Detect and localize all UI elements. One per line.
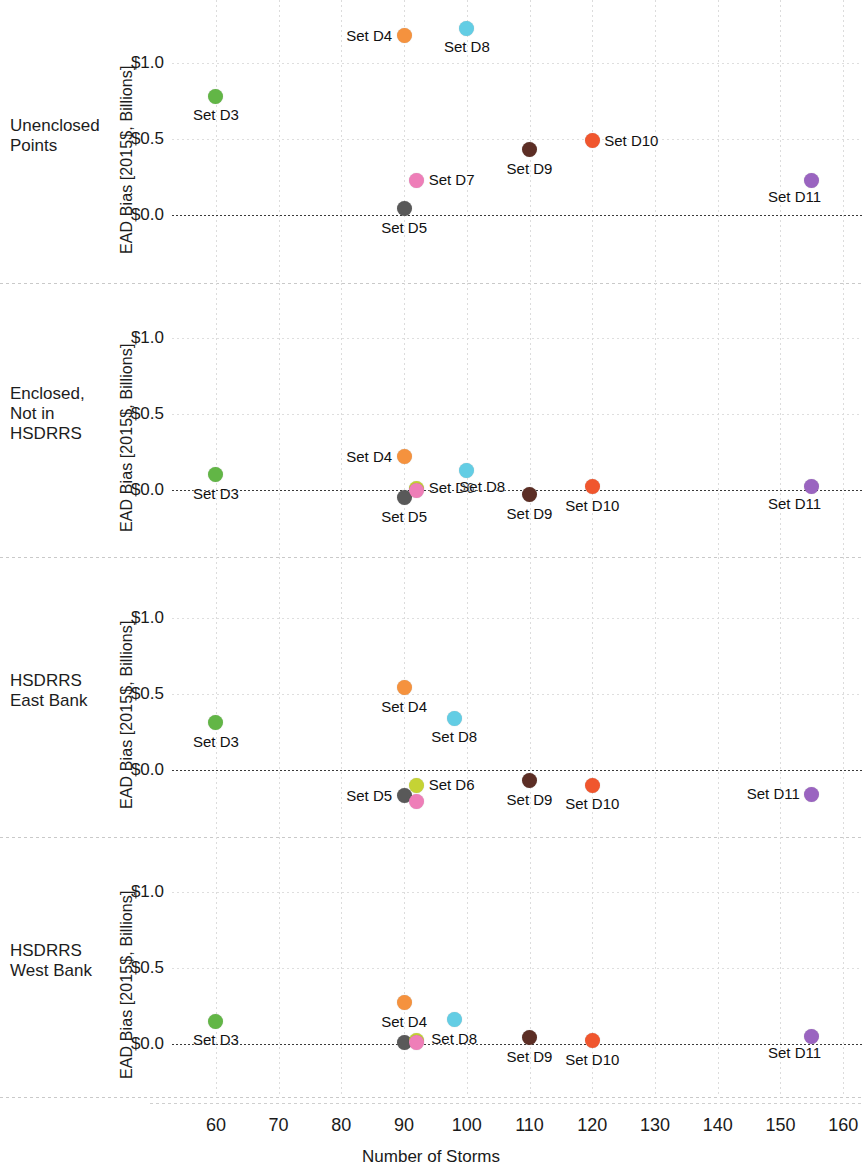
data-point-label: Set D8 xyxy=(459,478,505,495)
data-point-set-d8[interactable] xyxy=(459,463,474,478)
data-point-set-d3[interactable] xyxy=(208,1014,223,1029)
x-tick-label: 70 xyxy=(269,1115,289,1136)
x-gridline xyxy=(216,837,217,1097)
data-point-set-d4[interactable] xyxy=(397,449,412,464)
data-point-label: Set D11 xyxy=(768,1044,821,1061)
x-gridline xyxy=(279,283,280,557)
x-gridline xyxy=(279,0,280,283)
data-point-set-d10[interactable] xyxy=(585,133,600,148)
y-gridline xyxy=(172,63,862,64)
data-point-set-d9[interactable] xyxy=(522,487,537,502)
ead-bias-figure: UnenclosedPointsEAD Bias [2015$, Billion… xyxy=(0,0,862,1166)
data-point-set-d9[interactable] xyxy=(522,142,537,157)
data-point-set-d10[interactable] xyxy=(585,778,600,793)
y-tick-label: $0.0 xyxy=(94,480,164,500)
data-point-label: Set D11 xyxy=(747,785,800,802)
data-point-label: Set D3 xyxy=(193,106,239,123)
x-tick-label: 120 xyxy=(577,1115,607,1136)
data-point-set-d11[interactable] xyxy=(804,479,819,494)
data-point-set-d7[interactable] xyxy=(409,794,424,809)
data-point-label: Set D6 xyxy=(429,776,475,793)
x-gridline xyxy=(718,283,719,557)
data-point-set-d4[interactable] xyxy=(397,680,412,695)
x-gridline xyxy=(592,283,593,557)
data-point-set-d3[interactable] xyxy=(208,89,223,104)
data-point-set-d7[interactable] xyxy=(409,483,424,498)
x-gridline xyxy=(341,837,342,1097)
x-gridline xyxy=(467,283,468,557)
data-point-label: Set D10 xyxy=(565,795,619,812)
x-gridline xyxy=(843,283,844,557)
data-point-label: Set D9 xyxy=(507,505,553,522)
panel-4: HSDRRSWest BankEAD Bias [2015$, Billions… xyxy=(0,837,862,1097)
data-point-set-d8[interactable] xyxy=(447,711,462,726)
x-gridline xyxy=(467,837,468,1097)
zero-reference-line xyxy=(172,770,862,771)
panel-separator-4 xyxy=(0,1097,862,1098)
y-gridline xyxy=(172,414,862,415)
y-tick-label: $0.5 xyxy=(94,404,164,424)
x-tick-label: 100 xyxy=(452,1115,482,1136)
x-gridline xyxy=(655,837,656,1097)
x-gridline xyxy=(279,837,280,1097)
data-point-set-d7[interactable] xyxy=(409,173,424,188)
data-point-label: Set D9 xyxy=(507,160,553,177)
data-point-label: Set D7 xyxy=(429,171,475,188)
y-gridline xyxy=(172,694,862,695)
x-tick-label: 140 xyxy=(703,1115,733,1136)
panel-1: UnenclosedPointsEAD Bias [2015$, Billion… xyxy=(0,0,862,283)
y-gridline xyxy=(172,968,862,969)
y-gridline xyxy=(172,618,862,619)
x-gridline xyxy=(216,557,217,837)
y-axis-title-3: EAD Bias [2015$, Billions] xyxy=(118,621,136,809)
data-point-set-d8[interactable] xyxy=(459,21,474,36)
data-point-label: Set D4 xyxy=(381,698,427,715)
data-point-set-d11[interactable] xyxy=(804,1029,819,1044)
y-tick-label: $0.5 xyxy=(94,684,164,704)
data-point-label: Set D11 xyxy=(768,188,821,205)
zero-reference-line xyxy=(172,215,862,216)
x-tick-label: 80 xyxy=(331,1115,351,1136)
data-point-label: Set D10 xyxy=(565,1051,619,1068)
data-point-set-d10[interactable] xyxy=(585,479,600,494)
x-gridline xyxy=(655,557,656,837)
x-gridline xyxy=(404,837,405,1097)
data-point-set-d9[interactable] xyxy=(522,773,537,788)
data-point-set-d4[interactable] xyxy=(397,995,412,1010)
data-point-set-d10[interactable] xyxy=(585,1033,600,1048)
data-point-set-d11[interactable] xyxy=(804,173,819,188)
data-point-label: Set D3 xyxy=(193,485,239,502)
data-point-label: Set D8 xyxy=(431,728,477,745)
x-gridline xyxy=(843,557,844,837)
data-point-label: Set D4 xyxy=(381,1013,427,1030)
data-point-set-d7[interactable] xyxy=(409,1035,424,1050)
data-point-label: Set D10 xyxy=(604,132,658,149)
data-point-label: Set D8 xyxy=(444,38,490,55)
x-gridline xyxy=(341,283,342,557)
data-point-label: Set D5 xyxy=(381,508,427,525)
data-point-label: Set D5 xyxy=(381,219,427,236)
y-tick-label: $1.0 xyxy=(94,608,164,628)
panel-row-label-line: HSDRRS xyxy=(10,424,130,444)
y-gridline xyxy=(172,338,862,339)
data-point-set-d8[interactable] xyxy=(447,1012,462,1027)
x-gridline xyxy=(718,557,719,837)
y-tick-label: $0.0 xyxy=(94,1034,164,1054)
x-gridline xyxy=(718,837,719,1097)
x-tick-label: 110 xyxy=(515,1115,544,1136)
x-tick-label: 150 xyxy=(765,1115,795,1136)
y-tick-label: $1.0 xyxy=(94,328,164,348)
x-gridline xyxy=(780,0,781,283)
panel-row-label-line: Enclosed, xyxy=(10,384,130,404)
data-point-set-d3[interactable] xyxy=(208,715,223,730)
data-point-set-d3[interactable] xyxy=(208,467,223,482)
x-gridline xyxy=(341,0,342,283)
data-point-set-d5[interactable] xyxy=(397,201,412,216)
x-tick-label: 130 xyxy=(640,1115,670,1136)
data-point-label: Set D8 xyxy=(431,1030,477,1047)
x-gridline xyxy=(279,557,280,837)
data-point-set-d6[interactable] xyxy=(409,778,424,793)
y-axis-title-2: EAD Bias [2015$, Billions] xyxy=(118,344,136,532)
data-point-set-d11[interactable] xyxy=(804,787,819,802)
data-point-set-d4[interactable] xyxy=(397,28,412,43)
